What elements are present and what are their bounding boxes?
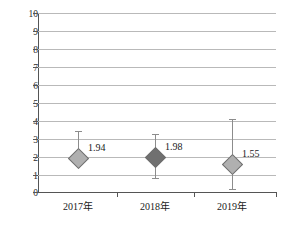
data-marker-2017 — [68, 148, 89, 169]
x-tick-mark-3 — [276, 192, 277, 197]
gridline-9 — [38, 31, 276, 32]
y-tick-label-0: 0 — [12, 188, 38, 198]
errorbar-cap-upper-2019 — [229, 119, 236, 120]
gridline-3 — [38, 139, 276, 140]
x-tick-label-2017: 2017年 — [43, 200, 113, 214]
gridline-6 — [38, 85, 276, 86]
data-label-2019: 1.55 — [242, 148, 260, 160]
gridline-10 — [38, 13, 276, 14]
plot-area: 1.94 1.98 1.55 — [38, 14, 276, 192]
x-tick-mark-1 — [117, 192, 118, 197]
y-tick-label-6: 6 — [12, 81, 38, 91]
y-tick-label-5: 5 — [12, 99, 38, 109]
y-tick-label-2: 2 — [12, 153, 38, 163]
data-label-2017: 1.94 — [88, 142, 106, 154]
y-tick-label-9: 9 — [12, 27, 38, 37]
errorbar-cap-upper-2017 — [75, 131, 82, 132]
y-tick-label-3: 3 — [12, 135, 38, 145]
gridline-7 — [38, 67, 276, 68]
data-marker-2018 — [145, 147, 166, 168]
y-tick-label-10: 10 — [12, 9, 38, 19]
errorbar-cap-lower-2018 — [152, 178, 159, 179]
gridline-4 — [38, 121, 276, 122]
data-label-2018: 1.98 — [165, 141, 183, 153]
x-tick-mark-2 — [194, 192, 195, 197]
x-tick-label-2018: 2018年 — [120, 200, 190, 214]
y-tick-label-1: 1 — [12, 171, 38, 181]
errorbar-cap-upper-2018 — [152, 134, 159, 135]
x-axis-line — [38, 192, 277, 193]
errorbar-cap-lower-2019 — [229, 189, 236, 190]
gridline-8 — [38, 49, 276, 50]
x-tick-label-2019: 2019年 — [197, 200, 267, 214]
y-tick-label-7: 7 — [12, 63, 38, 73]
gridline-5 — [38, 103, 276, 104]
chart-container: 院内死亡率（%） 10 9 8 7 6 5 4 3 2 1 0 — [0, 0, 290, 228]
y-tick-label-4: 4 — [12, 117, 38, 127]
y-axis-ticks: 10 9 8 7 6 5 4 3 2 1 0 — [0, 0, 38, 193]
gridline-1 — [38, 175, 276, 176]
y-tick-label-8: 8 — [12, 45, 38, 55]
